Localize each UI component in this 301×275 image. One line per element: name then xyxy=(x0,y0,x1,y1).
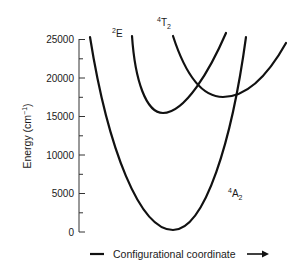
y-ticks xyxy=(79,40,85,213)
ytick-15000: 15000 xyxy=(46,111,74,122)
ytick-25000: 25000 xyxy=(46,34,74,45)
label-4A2: 4A2 xyxy=(228,187,243,201)
ytick-5000: 5000 xyxy=(52,188,75,199)
curve-2E xyxy=(132,33,226,113)
curve-4T2 xyxy=(173,36,286,97)
label-2E: 2E xyxy=(112,27,123,39)
ytick-0: 0 xyxy=(68,227,74,238)
label-4T2: 4T2 xyxy=(157,16,171,30)
curve-4A2 xyxy=(90,37,246,230)
ytick-20000: 20000 xyxy=(46,73,74,84)
x-axis-label: Configurational coordinate xyxy=(113,248,236,260)
y-axis-label: Energy (cm−1) xyxy=(21,103,33,168)
energy-diagram: 25000 20000 15000 10000 5000 0 Energy (c… xyxy=(0,0,301,275)
ytick-10000: 10000 xyxy=(46,150,74,161)
